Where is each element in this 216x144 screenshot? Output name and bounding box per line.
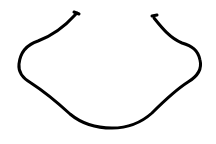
- line-drawing-canvas: [0, 0, 216, 144]
- curved-stroke-drawing: [0, 0, 216, 144]
- curved-stroke-path: [19, 13, 201, 128]
- left-stroke-tip: [74, 12, 79, 14]
- right-stroke-tip: [152, 15, 157, 16]
